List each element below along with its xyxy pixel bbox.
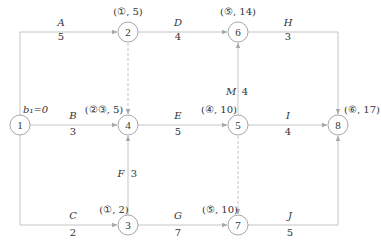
node-7-label: 7 (235, 219, 241, 231)
activity-e-duration: 5 (175, 126, 181, 137)
activity-d-name: D (173, 17, 182, 28)
node-1-annotation: b₁=0 (23, 104, 49, 115)
activity-h-name: H (283, 17, 293, 28)
activity-b-duration: 3 (70, 126, 76, 137)
node-7-annotation: (⑤, 10) (202, 204, 238, 215)
activity-h-duration: 3 (285, 31, 291, 42)
activity-b-name: B (68, 110, 76, 121)
node-8-label: 8 (335, 119, 341, 131)
activity-c-duration: 2 (70, 227, 76, 238)
activity-a-duration: 5 (58, 31, 64, 42)
activity-i-name: I (285, 110, 291, 121)
activity-f-name: F (117, 168, 126, 179)
activity-j-duration: 5 (287, 227, 293, 238)
activity-i-duration: 4 (285, 126, 291, 137)
activity-j-name: J (286, 210, 293, 221)
network-diagram: 1 2 3 4 5 6 7 8 b₁=0 (①, 5) (①, 2) (②③, … (0, 0, 381, 249)
arrow-h (248, 32, 338, 114)
node-4-annotation: (②③, 5) (85, 104, 124, 115)
arrow-j (248, 136, 338, 225)
activity-c-name: C (69, 210, 77, 221)
activity-m-duration: 4 (242, 86, 248, 97)
node-5-label: 5 (235, 119, 241, 131)
activity-f-duration: 3 (131, 168, 137, 179)
node-5-annotation: (④, 10) (201, 104, 237, 115)
node-2-label: 2 (125, 26, 131, 38)
activity-g-name: G (174, 210, 182, 221)
activity-a-name: A (56, 17, 64, 28)
activity-d-duration: 4 (175, 31, 181, 42)
node-3-label: 3 (125, 219, 131, 231)
node-1-label: 1 (17, 119, 23, 131)
arrow-a (20, 32, 117, 115)
activity-m-name: M (225, 86, 237, 97)
node-6-label: 6 (235, 26, 241, 38)
node-4-label: 4 (125, 119, 131, 131)
node-2-annotation: (①, 5) (113, 6, 143, 17)
activity-e-name: E (173, 110, 182, 121)
activity-g-duration: 7 (175, 227, 181, 238)
node-8-annotation: (⑥, 17) (344, 104, 380, 115)
node-3-annotation: (①, 2) (99, 204, 129, 215)
node-6-annotation: (⑤, 14) (220, 6, 256, 17)
